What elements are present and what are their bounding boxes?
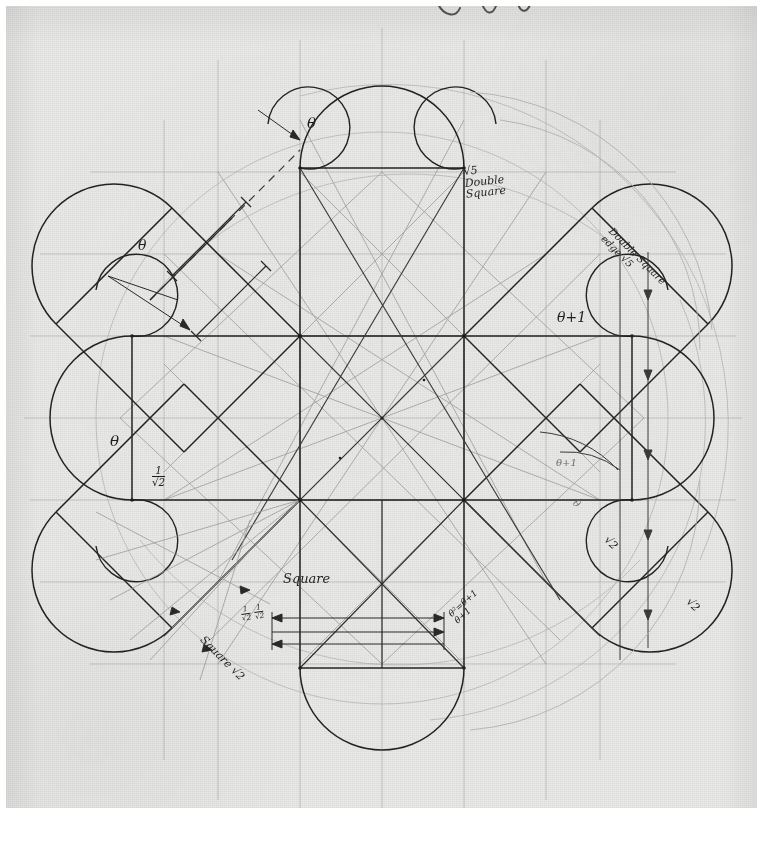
label-root5-line2: Double: [464, 173, 505, 189]
label-half-root2-a-num: 1: [240, 606, 250, 614]
construction-drawing: [0, 0, 764, 858]
faint-arc-top-right: [470, 92, 712, 350]
dimension-bars-bottom: [272, 612, 444, 650]
label-half-root2-group: 1 √2 1 √2: [240, 601, 265, 622]
label-half-root2-b-den: √2: [254, 610, 264, 619]
arm-diagonal-top-left: [32, 184, 300, 452]
label-half-root2-b: 1 √2: [253, 604, 264, 620]
dimension-arrow-upper-left-2: [191, 261, 271, 341]
label-half-root2-a-den: √2: [241, 612, 251, 621]
paper-sheet: θ θ θ θ+1 θ+1 √5 Double Square Double Sq…: [0, 0, 764, 858]
lower-square-cross: [300, 500, 464, 668]
arm-diagonal-bottom-right: [464, 384, 732, 652]
label-root5-double-square: √5 Double Square: [463, 162, 506, 201]
faint-arc-bottom-right: [470, 480, 700, 730]
label-half-root2-b-num: 1: [253, 604, 263, 612]
dimension-arrows-right: [620, 240, 652, 660]
label-half-root2-a: 1 √2: [240, 606, 251, 622]
arrow-lobe-top: [258, 110, 300, 140]
compass-arcs-faint: [96, 84, 728, 720]
arm-diagonal-top-right: [464, 184, 732, 452]
faint-fan-lower-left: [96, 500, 300, 680]
